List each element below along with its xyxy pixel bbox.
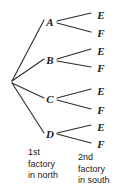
stage2-caption-line-3: in south	[78, 175, 110, 187]
node-label-b-f: F	[97, 63, 104, 74]
branch-b-to-f	[57, 61, 91, 67]
node-label-c-e: E	[97, 86, 104, 97]
branch-root-to-a	[12, 20, 44, 81]
node-label-b-e: E	[97, 46, 104, 57]
node-label-a: A	[46, 17, 53, 28]
branch-d-to-f	[57, 134, 91, 143]
node-label-a-f: F	[97, 28, 104, 39]
stage1-caption-line-2: factory	[28, 159, 58, 171]
branch-d-to-e	[57, 125, 91, 133]
node-label-d-f: F	[97, 139, 104, 150]
branch-root-to-b	[12, 59, 44, 81]
node-label-d-e: E	[97, 122, 104, 133]
node-label-b: B	[46, 55, 53, 66]
probability-tree-diagram: A B C D E F E F E F E F 1st factory in n…	[0, 0, 124, 195]
node-label-d: D	[46, 129, 54, 140]
stage1-caption-line-3: in north	[28, 170, 58, 182]
stage2-caption-line-1: 2nd	[78, 152, 110, 164]
stage2-caption-line-2: factory	[78, 164, 110, 176]
stage2-caption: 2nd factory in south	[78, 152, 110, 187]
stage1-caption: 1st factory in north	[28, 147, 58, 182]
node-label-c-f: F	[97, 105, 104, 116]
branch-b-to-e	[57, 49, 91, 59]
stage1-caption-line-1: 1st	[28, 147, 58, 159]
node-label-a-e: E	[97, 10, 104, 21]
branch-c-to-e	[57, 89, 91, 98]
branch-a-to-e	[57, 13, 91, 21]
branch-c-to-f	[57, 100, 91, 109]
branch-a-to-f	[57, 23, 91, 32]
node-label-c: C	[46, 94, 53, 105]
